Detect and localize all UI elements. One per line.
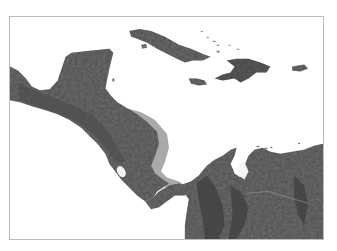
puerto-rico — [292, 65, 308, 72]
bay-islands — [107, 110, 111, 111]
cozumel-island — [112, 78, 114, 81]
jamaica — [189, 78, 207, 85]
bahamas — [201, 31, 240, 53]
hispaniola — [215, 59, 271, 83]
isla-de-la-juventud — [141, 44, 147, 49]
map-frame — [9, 16, 324, 240]
relief-map — [10, 17, 323, 239]
